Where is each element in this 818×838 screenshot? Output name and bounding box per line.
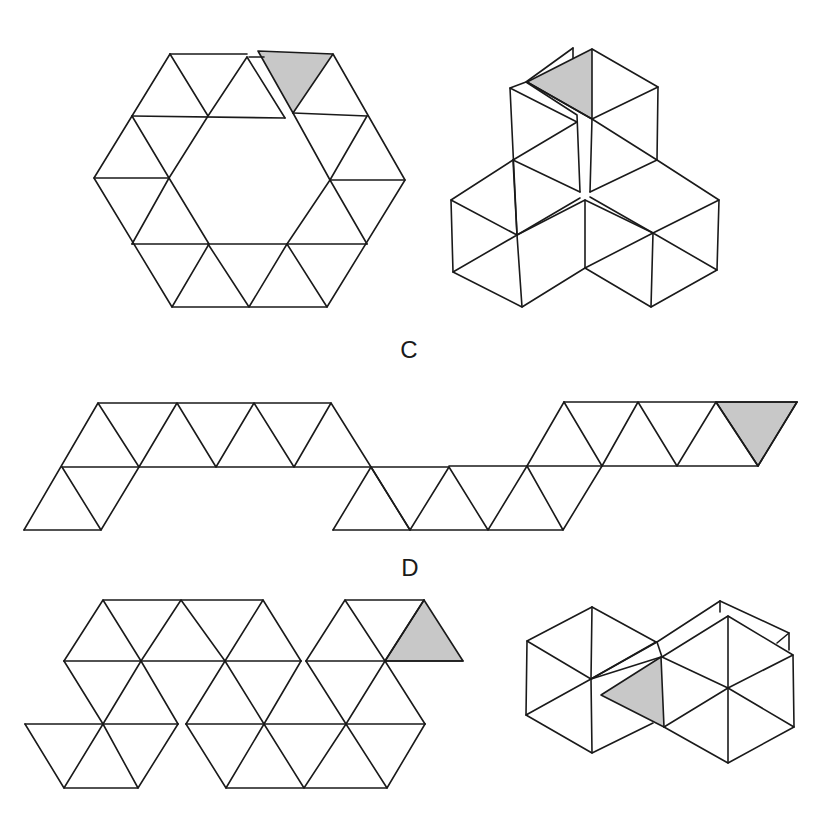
edge-line <box>330 180 367 244</box>
edge-line <box>590 160 657 192</box>
edge-line <box>590 119 592 192</box>
edge-line <box>517 235 522 307</box>
edge-line <box>64 600 301 661</box>
edge-line <box>592 607 656 642</box>
edge-line <box>657 87 658 160</box>
shaded-triangle <box>258 51 333 113</box>
edge-line <box>517 198 580 235</box>
edge-line <box>657 601 720 642</box>
edge-line <box>451 200 517 272</box>
edge-line <box>62 467 139 530</box>
edge-line <box>513 160 517 235</box>
edge-line <box>585 200 653 233</box>
edge-line <box>591 607 592 753</box>
bumpy-net-D <box>25 600 463 788</box>
hexagon-ring-net <box>94 51 405 307</box>
edge-line <box>527 402 564 466</box>
edge-line <box>186 724 425 788</box>
edge-line <box>293 113 330 180</box>
edge-line <box>513 160 580 192</box>
edge-line <box>293 113 367 116</box>
diagram-canvas <box>0 0 818 838</box>
edge-line <box>330 116 367 180</box>
edge-line <box>371 467 410 530</box>
edge-line <box>526 641 591 715</box>
edge-line <box>513 122 577 160</box>
edge-line <box>208 244 327 307</box>
edge-line <box>653 200 719 270</box>
edge-line <box>225 661 301 724</box>
label-c: C <box>400 336 417 364</box>
edge-line <box>664 688 794 727</box>
edge-line <box>25 724 178 788</box>
edge-line <box>306 661 425 724</box>
edge-line <box>287 180 330 244</box>
folded-3d-model-top <box>451 48 719 307</box>
shaded-triangle <box>716 402 797 466</box>
edge-line <box>64 661 178 724</box>
shaded-triangle <box>385 600 463 661</box>
edge-line <box>208 57 247 116</box>
label-d: D <box>401 554 418 582</box>
edge-line <box>651 233 653 307</box>
edge-line <box>132 178 169 244</box>
edge-line <box>132 116 169 178</box>
shaded-triangle <box>527 49 592 119</box>
edge-line <box>585 233 653 268</box>
edge-line <box>592 119 657 160</box>
strip-net-C <box>24 402 797 530</box>
edge-line <box>777 633 789 643</box>
edge-line <box>657 642 662 657</box>
edge-line <box>169 54 209 307</box>
edge-line <box>186 661 225 724</box>
folded-3d-model-bottom <box>526 601 794 763</box>
